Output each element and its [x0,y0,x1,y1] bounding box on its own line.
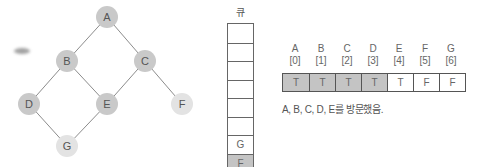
queue-cell-front: F [228,154,253,168]
visited-indices-row: [0] [1] [2] [3] [4] [5] [6] [282,55,466,67]
array-index: [5] [412,55,438,67]
queue-cell [228,80,253,99]
node-f: F [171,93,193,115]
array-label: B [308,43,334,55]
visited-labels-row: A B C D E F G [282,43,466,55]
queue-cell [228,61,253,80]
array-label: F [412,43,438,55]
array-cell: T [309,74,335,91]
queue-label: 큐 [227,4,254,23]
array-cell: F [413,74,439,91]
array-index: [1] [308,55,334,67]
array-index: [3] [360,55,386,67]
array-cell: T [361,74,387,91]
queue-cell [228,117,253,136]
visited-array: A B C D E F G [0] [1] [2] [3] [4] [5] [6… [282,43,466,92]
node-a: A [96,6,118,28]
array-index: [0] [282,55,308,67]
array-cell: T [387,74,413,91]
array-label: E [386,43,412,55]
visited-cells: T T T T T F F [282,73,466,92]
array-label: G [438,43,464,55]
array-label: C [334,43,360,55]
caption: A, B, C, D, E를 방문했음. [282,101,383,116]
queue-cell [228,43,253,62]
node-e: E [96,93,118,115]
array-index: [6] [438,55,464,67]
array-index: [2] [334,55,360,67]
graph-diagram: A B C D E F G [0,0,210,167]
node-d: D [18,93,40,115]
node-c: C [134,50,156,72]
array-cell: T [335,74,361,91]
array-index: [4] [386,55,412,67]
queue: 큐 G F [227,4,254,167]
array-label: A [282,43,308,55]
array-cell: F [439,74,465,91]
array-label: D [360,43,386,55]
queue-cell: G [228,135,253,154]
queue-cell [228,24,253,43]
node-b: B [56,50,78,72]
queue-cells: G F [227,23,254,167]
node-g: G [56,135,78,157]
array-cell: T [283,74,309,91]
queue-cell [228,98,253,117]
